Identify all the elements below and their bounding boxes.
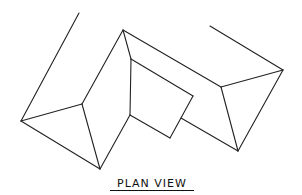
box-right-to-box-bottom — [170, 96, 193, 138]
left-long-edge — [21, 13, 79, 121]
right-eave-to-bottom — [238, 70, 283, 151]
plan-view-drawing — [0, 0, 302, 195]
plan-view-caption: PLAN VIEW — [110, 178, 194, 191]
apex-to-right-ridge — [123, 30, 221, 87]
inner-ridge-to-box-right — [131, 59, 193, 96]
right-long-edge — [210, 26, 283, 70]
right-ridge-to-eave — [221, 70, 283, 87]
inner-ridge-to-box-left — [130, 59, 131, 115]
box-edge-to-right-bottom — [181, 118, 238, 151]
box-left-to-box-bottom — [130, 115, 170, 138]
left-hip-to-apex — [82, 30, 123, 104]
box-left-to-left-bottom — [100, 115, 130, 169]
right-ridge-to-bottom — [221, 87, 238, 151]
left-eave-to-hip — [21, 104, 82, 121]
